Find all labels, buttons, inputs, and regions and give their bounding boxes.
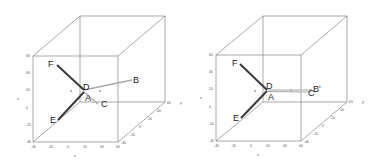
svg-text:60: 60 bbox=[299, 144, 303, 148]
svg-text:60: 60 bbox=[26, 54, 30, 58]
svg-text:0: 0 bbox=[26, 106, 28, 110]
svg-text:40: 40 bbox=[26, 71, 30, 75]
label-e: E bbox=[50, 115, 56, 125]
left-plot-canvas: F D A B C E -40 -20 0 20 40 60 x -40 -20… bbox=[0, 0, 192, 164]
svg-text:-40: -40 bbox=[121, 141, 126, 145]
label-b: B bbox=[133, 75, 139, 85]
svg-text:0: 0 bbox=[209, 105, 211, 109]
right-z-ticks: -40 -20 0 20 40 60 bbox=[209, 53, 214, 143]
svg-text:0: 0 bbox=[67, 145, 69, 149]
right-x-axis-label: x bbox=[257, 153, 259, 157]
marker-dot bbox=[99, 90, 100, 91]
label-c: C bbox=[101, 99, 108, 109]
vector-ae bbox=[58, 92, 84, 120]
right-3d-plot: F D A B' C E -40 -20 0 20 40 60 x -40 -2… bbox=[183, 0, 375, 164]
label-a: A bbox=[268, 92, 274, 102]
marker-dot bbox=[290, 89, 291, 90]
svg-text:-40: -40 bbox=[304, 140, 309, 144]
label-c: C bbox=[308, 88, 315, 98]
svg-text:-20: -20 bbox=[313, 132, 318, 136]
label-d: D bbox=[266, 81, 273, 91]
svg-text:-40: -40 bbox=[214, 144, 219, 148]
right-y-ticks: -40 -20 0 20 40 60 bbox=[304, 100, 353, 144]
svg-text:0: 0 bbox=[322, 124, 324, 128]
svg-text:20: 20 bbox=[148, 117, 152, 121]
vector-ac bbox=[268, 92, 311, 93]
svg-text:-40: -40 bbox=[31, 145, 36, 149]
right-plot-canvas: F D A B' C E -40 -20 0 20 40 60 x -40 -2… bbox=[183, 0, 385, 164]
svg-text:-20: -20 bbox=[26, 123, 31, 127]
svg-text:0: 0 bbox=[250, 144, 252, 148]
label-f: F bbox=[48, 59, 54, 69]
label-e: E bbox=[233, 113, 239, 123]
marker-dot bbox=[70, 90, 71, 91]
vector-db bbox=[84, 80, 132, 90]
left-x-axis-label: x bbox=[74, 154, 76, 158]
svg-text:20: 20 bbox=[209, 87, 213, 91]
label-a: A bbox=[85, 93, 91, 103]
svg-text:20: 20 bbox=[26, 88, 30, 92]
svg-text:0: 0 bbox=[139, 125, 141, 129]
svg-text:-20: -20 bbox=[209, 122, 214, 126]
svg-text:40: 40 bbox=[100, 145, 104, 149]
vector-ae bbox=[241, 91, 267, 118]
right-y-axis-label: y bbox=[362, 100, 364, 104]
svg-text:40: 40 bbox=[209, 70, 213, 74]
svg-text:-20: -20 bbox=[48, 145, 53, 149]
svg-text:20: 20 bbox=[83, 145, 87, 149]
svg-text:60: 60 bbox=[349, 100, 353, 104]
svg-text:60: 60 bbox=[116, 145, 120, 149]
svg-text:20: 20 bbox=[331, 116, 335, 120]
left-3d-plot: F D A B C E -40 -20 0 20 40 60 x -40 -20… bbox=[0, 0, 192, 164]
left-y-axis-label: y bbox=[180, 101, 182, 105]
left-y-ticks: -40 -20 0 20 40 60 bbox=[121, 101, 171, 145]
svg-text:40: 40 bbox=[157, 109, 161, 113]
label-f: F bbox=[232, 58, 238, 68]
svg-text:20: 20 bbox=[266, 144, 270, 148]
svg-text:40: 40 bbox=[283, 144, 287, 148]
svg-text:40: 40 bbox=[340, 108, 344, 112]
left-x-ticks: -40 -20 0 20 40 60 bbox=[31, 145, 120, 149]
right-z-axis-label: z bbox=[200, 96, 202, 100]
label-d: D bbox=[83, 82, 90, 92]
svg-text:-40: -40 bbox=[209, 139, 214, 143]
right-x-ticks: -40 -20 0 20 40 60 bbox=[214, 144, 303, 148]
svg-text:-20: -20 bbox=[231, 144, 236, 148]
left-z-ticks: -40 -20 0 20 40 60 bbox=[26, 54, 31, 144]
left-z-axis-label: z bbox=[17, 97, 19, 101]
svg-text:60: 60 bbox=[167, 101, 171, 105]
svg-text:-40: -40 bbox=[26, 140, 31, 144]
svg-text:60: 60 bbox=[209, 53, 213, 57]
marker-dot bbox=[254, 90, 255, 91]
svg-text:-20: -20 bbox=[130, 133, 135, 137]
